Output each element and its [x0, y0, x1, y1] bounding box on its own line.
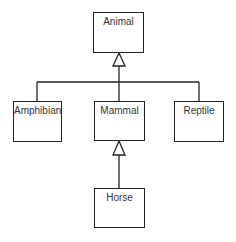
- class-amphibian: Amphibian: [13, 101, 62, 142]
- class-amphibian-name: Amphibian: [14, 105, 61, 116]
- class-horse-name: Horse: [95, 192, 144, 203]
- class-mammal-name: Mammal: [95, 105, 144, 116]
- class-reptile-name: Reptile: [175, 105, 223, 116]
- class-animal-name: Animal: [94, 16, 143, 27]
- class-reptile: Reptile: [174, 101, 224, 142]
- generalization-arrow-animal: [113, 53, 125, 66]
- class-animal: Animal: [93, 12, 144, 53]
- generalization-arrow-mammal: [113, 141, 125, 155]
- class-horse: Horse: [94, 188, 145, 228]
- class-mammal: Mammal: [94, 101, 145, 141]
